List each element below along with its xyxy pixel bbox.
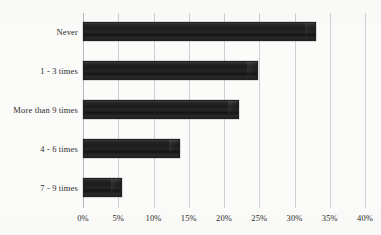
x-tick-label-30: 30% xyxy=(278,213,312,223)
x-tick-label-40: 40% xyxy=(348,213,381,223)
bar-row xyxy=(83,130,365,169)
bar-more-than-9-times xyxy=(83,100,239,119)
bar-row xyxy=(83,169,365,208)
bar-row xyxy=(83,91,365,130)
bar-chart: Never1 - 3 timesMore than 9 times4 - 6 t… xyxy=(0,0,381,235)
gridline-40 xyxy=(365,13,366,208)
bar-never xyxy=(83,22,316,41)
bar-7-9-times xyxy=(83,178,122,197)
bar-row xyxy=(83,52,365,91)
bar-row xyxy=(83,13,365,52)
x-tick-label-25: 25% xyxy=(242,213,276,223)
category-label-7-9-times: 7 - 9 times xyxy=(0,183,78,193)
x-tick-label-10: 10% xyxy=(137,213,171,223)
x-tick-label-5: 5% xyxy=(101,213,135,223)
bar-1-3-times xyxy=(83,61,258,80)
category-label-more-than-9-times: More than 9 times xyxy=(0,105,78,115)
category-label-1-3-times: 1 - 3 times xyxy=(0,66,78,76)
plot-area xyxy=(83,13,365,208)
x-tick-label-15: 15% xyxy=(172,213,206,223)
category-label-never: Never xyxy=(0,27,78,37)
bar-4-6-times xyxy=(83,139,180,158)
category-label-4-6-times: 4 - 6 times xyxy=(0,144,78,154)
x-tick-label-0: 0% xyxy=(66,213,100,223)
x-tick-label-20: 20% xyxy=(207,213,241,223)
x-tick-label-35: 35% xyxy=(313,213,347,223)
